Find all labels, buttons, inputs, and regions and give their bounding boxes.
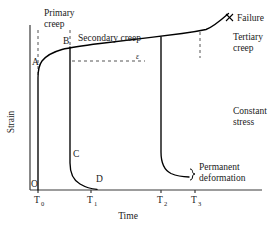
- x-tick-label-t0: T 0: [34, 195, 44, 207]
- label-point-o: O: [31, 179, 38, 189]
- label-strain-rate-epsilon: ε: [136, 52, 139, 61]
- x-tick-label-t1: T 1: [87, 195, 97, 207]
- x-axis-title: Time: [118, 211, 138, 221]
- x-tick-label-t2-sub: 2: [164, 200, 167, 207]
- failure-x-icon: [226, 14, 233, 21]
- label-point-b: B: [63, 36, 69, 46]
- label-permanent-deformation-line2: deformation: [199, 173, 246, 183]
- label-constant-stress-line1: Constant: [233, 106, 267, 116]
- label-tertiary-creep-line2: creep: [233, 43, 254, 53]
- y-axis-title: Strain: [6, 110, 16, 133]
- label-primary-creep-line1: Primary: [44, 8, 75, 18]
- x-tick-label-t3: T 3: [191, 195, 201, 207]
- label-primary-creep-line2: creep: [44, 19, 65, 29]
- x-tick-label-t0-sub: 0: [41, 200, 44, 207]
- label-failure: Failure: [237, 13, 264, 23]
- x-tick-label-t3-sub: 3: [198, 200, 201, 207]
- label-point-c: C: [73, 149, 79, 159]
- unload-curve-t2: [161, 37, 189, 177]
- label-constant-stress-line2: stress: [233, 117, 254, 127]
- x-tick-label-t3-base: T: [191, 195, 197, 205]
- x-tick-label-t1-sub: 1: [94, 200, 97, 207]
- label-permanent-deformation-line1: Permanent: [199, 162, 240, 172]
- label-secondary-creep: Secondary creep: [78, 33, 141, 43]
- creep-curve-svg: Primary creep Secondary creep Tertiary c…: [0, 0, 278, 226]
- label-tertiary-creep-line1: Tertiary: [233, 32, 263, 42]
- x-tick-label-t2-base: T: [157, 195, 163, 205]
- label-point-d: D: [96, 174, 103, 184]
- label-point-a: A: [32, 57, 39, 67]
- creep-curve-figure: Primary creep Secondary creep Tertiary c…: [0, 0, 278, 226]
- x-tick-label-t1-base: T: [87, 195, 93, 205]
- x-tick-label-t2: T 2: [157, 195, 167, 207]
- permanent-deformation-brace: [190, 169, 195, 180]
- unload-curve-t1: [70, 47, 97, 189]
- x-tick-label-t0-base: T: [34, 195, 40, 205]
